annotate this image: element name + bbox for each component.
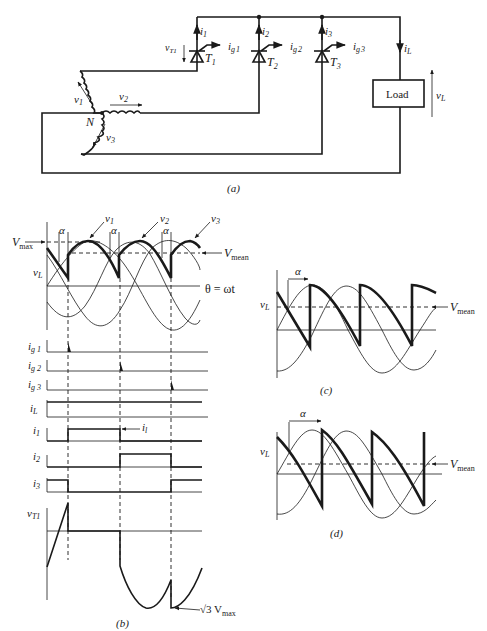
t2-label: T2 xyxy=(267,55,278,71)
sqrt3-vmax-label: √3 Vmax xyxy=(200,603,236,618)
i1-trace-label: i1 xyxy=(33,424,40,438)
t1-wire xyxy=(80,17,197,71)
vmax-label: Vmax xyxy=(12,235,33,251)
waveform-panel-b: α α α v1 v2 v3 Vmax Vmean vL θ = ωt ig 1… xyxy=(12,212,249,630)
i1-label: i1 xyxy=(200,25,207,39)
v3-label: v3 xyxy=(106,131,115,145)
i2-trace-label: i2 xyxy=(33,450,40,464)
vl-wave-label: vL xyxy=(33,266,43,280)
vl-waveform-c xyxy=(277,285,436,347)
i3-trace: i3 xyxy=(33,477,202,492)
caption-d: (d) xyxy=(330,527,343,540)
neutral-label: N xyxy=(85,115,95,129)
vl-waveform-d xyxy=(277,430,424,506)
i3-label: i3 xyxy=(325,25,332,39)
v1-wave-label: v1 xyxy=(105,212,114,226)
vl-label: vL xyxy=(436,89,446,103)
ig1-label: ig1 xyxy=(228,40,240,54)
vl-label-c: vL xyxy=(260,298,270,312)
alpha-label-c: α xyxy=(295,265,301,277)
alpha-label-1: α xyxy=(59,224,65,236)
vmean-label-c: Vmean xyxy=(450,300,475,316)
v2-label: v2 xyxy=(119,90,128,104)
waveform-panel-c: α vL Vmean (c) xyxy=(260,265,475,397)
il-arrow-label: il xyxy=(142,421,148,435)
vl-label-d: vL xyxy=(260,445,270,459)
i3-trace-label: i3 xyxy=(33,477,40,491)
vt1-trace: √3 Vmax vT1 xyxy=(27,503,236,618)
gate-pulse-traces: ig 1 ig 2 ig 3 xyxy=(28,340,208,392)
theta-label: θ = ωt xyxy=(205,282,235,296)
vt1-trace-label: vT1 xyxy=(27,507,40,521)
t3-label: T3 xyxy=(330,55,341,71)
ig2-trace-label: ig 2 xyxy=(28,359,41,373)
il-label: iL xyxy=(404,42,412,56)
caption-a: (a) xyxy=(227,182,240,195)
v3-wave-label: v3 xyxy=(211,212,220,226)
ig3-label: ig3 xyxy=(353,40,365,54)
circuit-diagram: i1 i2 i3 ig1 ig2 ig3 T1 T2 T3 vT1 iL Loa… xyxy=(42,15,446,195)
return-wire xyxy=(42,107,400,173)
ig3-trace-label: ig 3 xyxy=(28,378,41,392)
v2-wave-label: v2 xyxy=(160,212,169,226)
caption-c: (c) xyxy=(320,384,333,397)
load-label: Load xyxy=(386,88,409,100)
t1-label: T1 xyxy=(205,51,216,67)
i1-trace: il i1 xyxy=(33,421,202,441)
diagram-canvas: i1 i2 i3 ig1 ig2 ig3 T1 T2 T3 vT1 iL Loa… xyxy=(0,0,487,631)
i2-trace: i2 xyxy=(33,450,202,467)
ig2-label: ig2 xyxy=(290,40,302,54)
vmean-label-d: Vmean xyxy=(450,457,475,473)
vt1-label: vT1 xyxy=(165,42,177,55)
vl-waveform xyxy=(47,241,200,278)
v1-label: v1 xyxy=(74,93,83,107)
ig1-trace-label: ig 1 xyxy=(28,340,41,354)
t3-wire xyxy=(81,17,322,154)
alpha-label-d: α xyxy=(300,407,306,419)
i2-label: i2 xyxy=(262,25,269,39)
il-trace-label: iL xyxy=(30,402,38,416)
vmean-label: Vmean xyxy=(224,246,249,262)
waveform-panel-d: α vL Vmean (d) xyxy=(260,407,475,540)
il-trace: iL xyxy=(30,400,208,417)
caption-b: (b) xyxy=(116,617,129,630)
